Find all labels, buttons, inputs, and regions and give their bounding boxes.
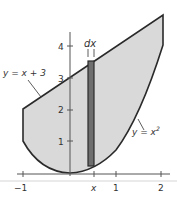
y-tick-label-1: 1	[58, 137, 64, 147]
x-tick-label-2: 2	[158, 183, 164, 193]
y-tick-label-3: 3	[58, 74, 64, 84]
line-equation-label: y = x + 3	[2, 68, 46, 78]
x-tick-label-neg1: −1	[14, 183, 27, 193]
y-tick-label-4: 4	[58, 42, 64, 52]
x-tick-label-x: x	[90, 183, 97, 193]
area-between-curves-diagram: dx y = x + 3 y = x2 1 2 3 4 −1 x 1 2	[0, 0, 177, 197]
y-tick-label-2: 2	[58, 105, 64, 115]
dx-strip	[88, 61, 94, 166]
dx-label: dx	[84, 38, 96, 49]
x-tick-label-1: 1	[113, 183, 119, 193]
parabola-equation-label: y = x2	[131, 125, 160, 137]
line-label-leader	[28, 80, 41, 97]
